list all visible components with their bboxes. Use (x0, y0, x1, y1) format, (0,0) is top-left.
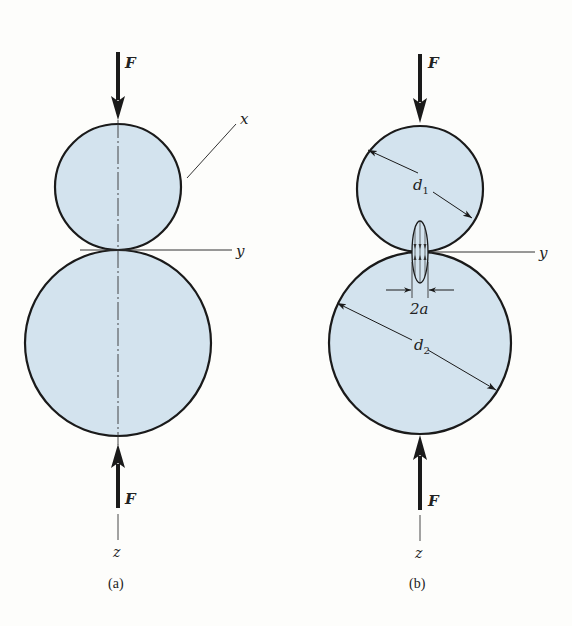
force-arrow-top-a (111, 52, 125, 120)
y-axis-label-a: y (235, 242, 245, 260)
force-label-top-b: F (427, 54, 440, 72)
force-arrow-bottom-a (111, 444, 125, 508)
force-label-bottom-a: F (124, 490, 137, 508)
force-label-top-a: F (124, 54, 137, 72)
contact-stress-diagram: y x F F z (a) y (0, 0, 572, 626)
y-axis-label-b: y (538, 244, 548, 262)
caption-b: (b) (409, 576, 426, 592)
caption-a: (a) (108, 576, 124, 592)
x-axis-label-a: x (240, 110, 249, 128)
force-label-bottom-b: F (427, 492, 440, 510)
panel-a: y x F F z (a) (25, 52, 249, 592)
panel-b: y 2a (329, 54, 548, 592)
contact-width-label: 2a (409, 300, 429, 318)
force-arrow-top-b (413, 54, 427, 123)
x-axis-leader-a (187, 124, 236, 178)
force-arrow-bottom-b (413, 435, 427, 510)
z-axis-label-a: z (112, 544, 121, 560)
z-axis-label-b: z (414, 545, 423, 561)
